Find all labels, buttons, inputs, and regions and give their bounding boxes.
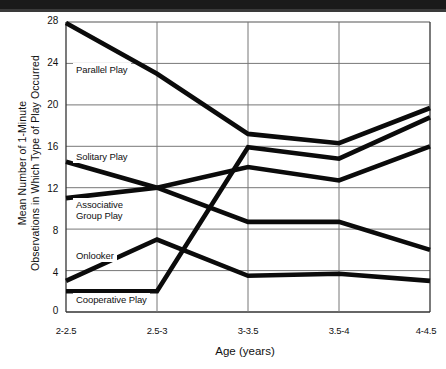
series-label-solitary-play: Solitary Play (73, 150, 131, 163)
series-label-parallel-play: Parallel Play (73, 63, 131, 76)
x-tick-1: 2.5-3 (137, 325, 177, 336)
series-label-onlooker: Onlooker (73, 249, 117, 262)
chart-figure: Mean Number of 1-Minute Observations in … (0, 0, 446, 369)
plot-area (0, 0, 446, 369)
x-tick-0: 2-2.5 (46, 325, 86, 336)
x-tick-4: 4-4.5 (406, 325, 446, 336)
x-tick-3: 3.5-4 (319, 325, 359, 336)
series-label-cooperative-play: Cooperative Play (73, 293, 150, 306)
x-tick-2: 3-3.5 (228, 325, 268, 336)
x-axis-title: Age (years) (0, 345, 446, 357)
series-label-associative-l2: Group Play (73, 209, 126, 222)
